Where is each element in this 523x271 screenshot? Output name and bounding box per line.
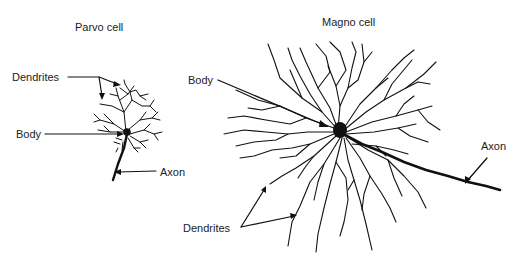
- parvo-cell-drawing: [45, 77, 162, 180]
- parvo-cell-title: Parvo cell: [75, 21, 123, 34]
- parvo-dendrites-label: Dendrites: [12, 71, 59, 84]
- parvo-body-label: Body: [16, 128, 41, 141]
- magno-axon-label: Axon: [481, 140, 506, 153]
- magno-cell-title: Magno cell: [322, 16, 375, 29]
- magno-soma: [333, 122, 347, 138]
- magno-dendrites-label: Dendrites: [183, 222, 230, 235]
- neuron-comparison-figure: Parvo cell Dendrites Body Axon Magno cel…: [0, 0, 523, 271]
- parvo-dendrite-pointers: [68, 77, 117, 96]
- magno-body-label: Body: [188, 74, 213, 87]
- parvo-axon-label: Axon: [160, 166, 185, 179]
- magno-cell-drawing: [218, 42, 500, 252]
- neuron-drawings: [0, 0, 523, 271]
- parvo-soma: [123, 128, 131, 136]
